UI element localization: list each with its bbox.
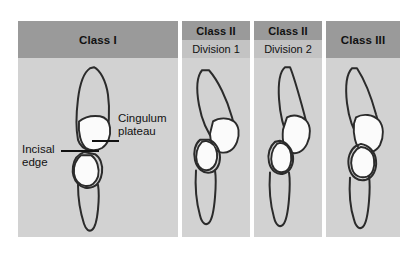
cingulum-plateau-highlight-class-1 [79, 116, 110, 150]
annotation-cingulum-line-1: Cingulum [118, 112, 167, 125]
panel-class-3 [326, 58, 400, 237]
annotation-incisal-edge: Incisal edge [22, 143, 55, 169]
incisor-classification-figure: Class I Cingulum plateau Incis [0, 0, 413, 255]
lower-incisor-root-class-2-division-1 [196, 171, 216, 225]
incisal-edge-highlight-class-2-division-1 [196, 141, 217, 170]
annotation-incisal-line-1: Incisal [22, 143, 55, 156]
tooth-diagram-class-2-division-1 [182, 58, 250, 237]
incisal-edge-highlight-class-2-division-2 [271, 143, 291, 172]
tooth-diagram-class-3 [326, 58, 400, 237]
column-class-3: Class III [326, 21, 400, 237]
annotation-cingulum-plateau: Cingulum plateau [118, 112, 167, 138]
column-class-1: Class I Cingulum plateau Incis [18, 21, 178, 237]
panel-class-2-division-2 [254, 58, 322, 237]
lower-incisor-root-class-2-division-2 [270, 173, 290, 227]
annotation-cingulum-line-2: plateau [118, 125, 167, 138]
incisal-edge-highlight-class-3 [351, 147, 374, 177]
column-class-2-division-2: Class II Division 2 [254, 21, 322, 237]
subheader-class-2-division-2: Division 2 [254, 40, 322, 58]
lower-incisor-root-class-3 [350, 177, 370, 228]
lower-incisor-root-class-1 [78, 185, 99, 231]
subheader-class-2-division-1: Division 1 [182, 40, 250, 58]
leader-line-cingulum [92, 140, 119, 142]
column-class-2-division-1: Class II Division 1 [182, 21, 250, 237]
header-class-3: Class III [326, 21, 400, 58]
header-class-2-division-1: Class II [182, 21, 250, 40]
incisal-edge-highlight-class-1 [74, 155, 99, 186]
leader-line-incisal [61, 150, 99, 152]
annotation-incisal-line-2: edge [22, 156, 55, 169]
header-class-1: Class I [18, 21, 178, 58]
panel-class-2-division-1 [182, 58, 250, 237]
tooth-diagram-class-2-division-2 [254, 58, 322, 237]
panel-class-1: Cingulum plateau Incisal edge [18, 58, 178, 237]
header-class-2-division-2: Class II [254, 21, 322, 40]
